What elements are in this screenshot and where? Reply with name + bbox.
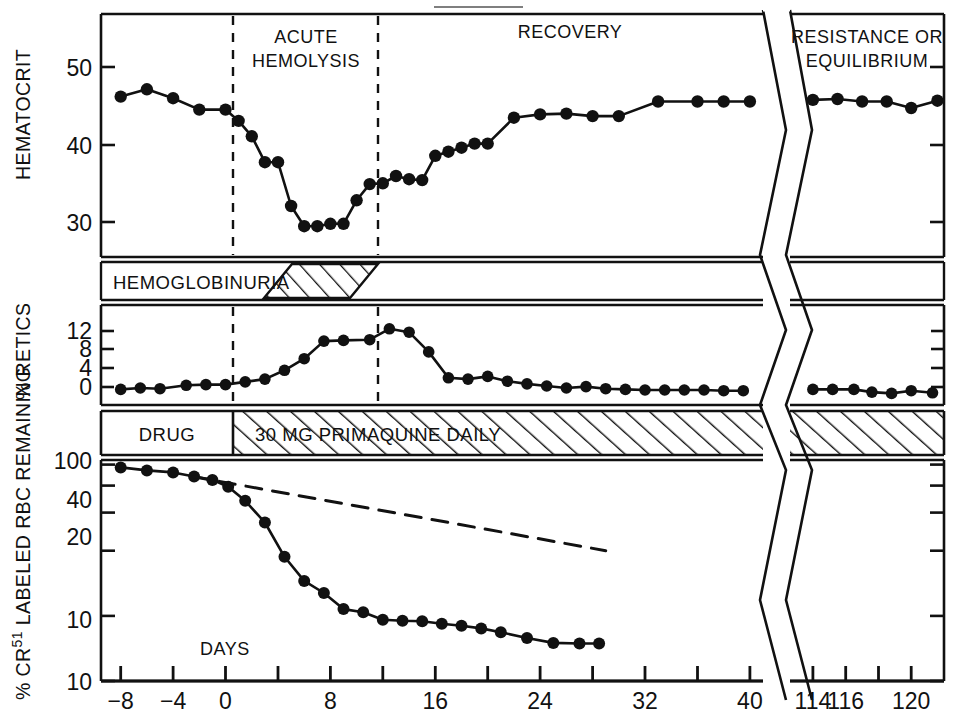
- hct-y-ticks: [101, 67, 944, 222]
- phase-label-acute-hemolysis-line1: ACUTE: [274, 27, 338, 47]
- hematocrit-point: [534, 108, 546, 120]
- x-axis-tick-labels: −8−40816243240114116120: [108, 688, 931, 714]
- retics-point: [502, 375, 514, 387]
- drug-hatch-region-right: [790, 412, 944, 454]
- figure-root: 50 40 30 HEMATOCRIT ACUTE HEMOLYSIS RECO…: [0, 0, 971, 716]
- cr-ytick-label-60: 40: [66, 487, 92, 513]
- hematocrit-point: [115, 90, 127, 102]
- retics-point: [279, 365, 291, 377]
- phase-label-resistance-line1: RESISTANCE OR: [791, 27, 943, 47]
- x-tick-label-right: 116: [827, 688, 864, 714]
- cr-ytick-label-10: 10: [66, 669, 92, 695]
- retics-line: [121, 329, 744, 391]
- retics-point: [220, 379, 232, 391]
- hematocrit-right-point: [856, 95, 868, 107]
- axis-break-line-right: [786, 10, 812, 700]
- band-drug: DRUG 30 MG PRIMAQUINE DAILY: [101, 411, 944, 455]
- retics-point: [154, 383, 166, 395]
- hematocrit-point: [232, 115, 244, 127]
- cr-ytick-label-20: 10: [66, 607, 92, 633]
- retics-point: [364, 334, 376, 346]
- ret-y-ticks: [101, 331, 944, 387]
- cr51-observed-point: [475, 622, 487, 634]
- retics-point: [561, 382, 573, 394]
- retics-right-point: [905, 385, 917, 397]
- hematocrit-point: [285, 200, 297, 212]
- retics-point: [580, 381, 592, 393]
- hct-ytick-label-50: 50: [66, 55, 92, 81]
- retics-right-point: [927, 387, 939, 399]
- x-tick-label: 40: [737, 688, 763, 714]
- x-axis: −8−40816243240114116120: [101, 666, 944, 714]
- phase-label-recovery: RECOVERY: [518, 22, 623, 42]
- x-tick-label: 32: [632, 688, 658, 714]
- cr51-observed-point: [397, 615, 409, 627]
- x-tick-label-right: 114: [795, 688, 832, 714]
- cr-ytick-label-100: 100: [54, 448, 92, 474]
- cr51-observed-point: [547, 637, 559, 649]
- cr51-observed-point: [298, 575, 310, 587]
- hematocrit-point: [744, 95, 756, 107]
- hct-data-series: [115, 83, 944, 232]
- cr51-observed-point: [279, 551, 291, 563]
- retics-right-point: [848, 384, 860, 396]
- cr51-observed-point: [574, 638, 586, 650]
- retics-point: [403, 326, 415, 338]
- cr-ytick-label-40: 20: [66, 524, 92, 550]
- x-tick-label: 16: [423, 688, 449, 714]
- cr51-observed-point: [338, 603, 350, 615]
- hct-ytick-label-40: 40: [66, 133, 92, 159]
- retics-point: [259, 373, 271, 385]
- retics-point: [521, 378, 533, 390]
- x-tick-label: 8: [324, 688, 337, 714]
- hematocrit-point: [455, 142, 467, 154]
- cr-data-series: [115, 461, 606, 649]
- retics-point: [338, 335, 350, 347]
- hematocrit-right-point: [905, 102, 917, 114]
- retics-right-point: [886, 388, 898, 400]
- cr51-observed-point: [377, 614, 389, 626]
- hematocrit-point: [390, 170, 402, 182]
- hematocrit-right-point: [931, 95, 943, 107]
- axis-break-line-left: [760, 10, 786, 700]
- hematocrit-point: [403, 173, 415, 185]
- cr51-observed-point: [239, 495, 251, 507]
- retics-point: [462, 373, 474, 385]
- ret-ytick-label-0: 0: [79, 374, 92, 400]
- cr51-observed-point: [259, 517, 271, 529]
- hematocrit-point: [364, 178, 376, 190]
- retics-right-point: [866, 386, 878, 398]
- retics-point: [600, 383, 612, 395]
- cr51-observed-point: [141, 464, 153, 476]
- hematocrit-point: [219, 103, 231, 115]
- cr51-observed-point: [167, 466, 179, 478]
- retics-point: [541, 380, 553, 392]
- x-tick-label: −8: [108, 688, 134, 714]
- cr51-observed-point: [495, 626, 507, 638]
- hematocrit-point: [442, 146, 454, 158]
- retics-point: [482, 371, 494, 383]
- cr51-observed-point: [521, 632, 533, 644]
- hematocrit-point: [259, 156, 271, 168]
- panel-hematocrit: 50 40 30 HEMATOCRIT ACUTE HEMOLYSIS RECO…: [12, 14, 944, 257]
- retics-point: [620, 384, 632, 396]
- retics-point: [443, 372, 455, 384]
- hematocrit-point: [416, 174, 428, 186]
- hematocrit-point: [298, 220, 310, 232]
- retics-point: [200, 379, 212, 391]
- hematocrit-point: [246, 130, 258, 142]
- retics-point: [698, 384, 710, 396]
- retics-point: [659, 384, 671, 396]
- cr51-observed-point: [436, 618, 448, 630]
- hematocrit-point: [272, 156, 284, 168]
- cr51-observed-point: [593, 638, 605, 650]
- hematocrit-point: [324, 218, 336, 230]
- hct-axis-label: HEMATOCRIT: [12, 49, 34, 180]
- hct-ytick-label-30: 30: [66, 210, 92, 236]
- retics-point: [718, 385, 730, 397]
- hematocrit-point: [193, 103, 205, 115]
- retics-point: [738, 385, 750, 397]
- retics-point: [298, 353, 310, 365]
- retics-point: [180, 380, 192, 392]
- hematocrit-point: [560, 107, 572, 119]
